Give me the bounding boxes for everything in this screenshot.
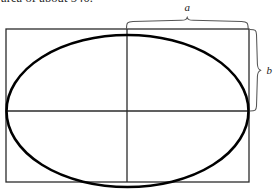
vertical-dimension-brace bbox=[250, 30, 261, 112]
label-a: a bbox=[184, 1, 190, 13]
horizontal-dimension-brace bbox=[127, 17, 249, 28]
figure-page: area of about 540. a b bbox=[0, 0, 277, 196]
ellipse-in-rectangle-diagram: a b bbox=[0, 0, 277, 196]
label-b: b bbox=[267, 64, 273, 76]
